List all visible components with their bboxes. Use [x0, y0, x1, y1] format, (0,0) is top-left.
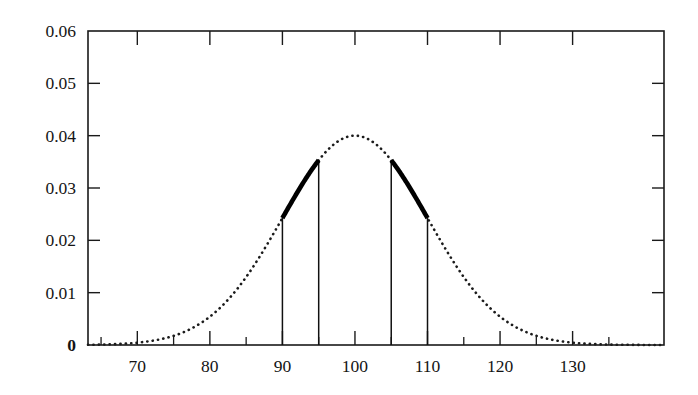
x-tick-label-70: 70: [129, 356, 147, 376]
y-axis-ticks-right: [652, 83, 664, 292]
y-tick-label-0.04: 0.04: [45, 126, 76, 146]
highlight-segment-1: [282, 160, 318, 218]
normal-distribution-chart: 00.010.020.030.040.050.06 70809010011012…: [0, 0, 698, 395]
y-axis-tick-labels: 00.010.020.030.040.050.06: [45, 21, 76, 355]
chart-container: 00.010.020.030.040.050.06 70809010011012…: [0, 0, 698, 395]
density-curve: [88, 136, 664, 345]
plot-frame: [88, 31, 664, 345]
highlight-segment-2: [391, 160, 427, 218]
x-tick-label-90: 90: [274, 356, 292, 376]
highlighted-curve-segments: [282, 160, 427, 218]
x-tick-label-100: 100: [342, 356, 369, 376]
pdf-curve-dotted: [88, 136, 664, 345]
x-axis-ticks-bottom: [101, 331, 609, 345]
y-tick-label-0: 0: [67, 335, 76, 355]
y-axis-ticks: [88, 83, 100, 292]
y-tick-label-0.02: 0.02: [45, 230, 76, 250]
y-tick-label-0.03: 0.03: [45, 178, 76, 198]
y-tick-label-0.06: 0.06: [45, 21, 76, 41]
x-tick-label-80: 80: [201, 356, 219, 376]
drop-lines: [282, 160, 427, 345]
x-tick-label-130: 130: [559, 356, 586, 376]
x-tick-label-110: 110: [415, 356, 441, 376]
x-axis-tick-labels: 708090100110120130: [129, 356, 586, 376]
y-tick-label-0.01: 0.01: [45, 283, 76, 303]
x-axis-ticks-top: [137, 31, 572, 45]
y-tick-label-0.05: 0.05: [45, 73, 76, 93]
axis-frame: [88, 31, 664, 345]
x-tick-label-120: 120: [487, 356, 514, 376]
